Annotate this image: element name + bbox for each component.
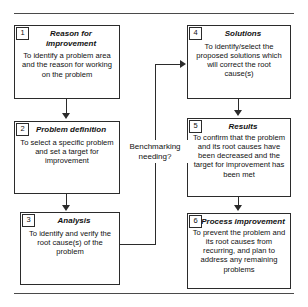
- arrow-down-icon-2-to-3: [62, 205, 70, 211]
- step-body-5: To confirm that the problem and its root…: [191, 133, 287, 179]
- flow-step-2[interactable]: 2 Problem definition To select a specifi…: [14, 121, 120, 194]
- top-divider-rule: [14, 13, 294, 14]
- step-number-badge-2: 2: [16, 123, 29, 136]
- step-number-badge-1: 1: [16, 27, 29, 40]
- flow-step-1[interactable]: 1 Reason for improvement To identify a p…: [14, 25, 120, 99]
- flow-step-6[interactable]: 6 Process improvement To prevent the pro…: [187, 213, 291, 289]
- flowchart-figure: 1 Reason for improvement To identify a p…: [0, 0, 308, 307]
- flow-step-3[interactable]: 3 Analysis To identify and verify the ro…: [20, 212, 120, 285]
- arrow-down-icon-1-to-2: [62, 113, 70, 119]
- step-body-6: To prevent the problem and its root caus…: [191, 228, 287, 274]
- step-title-3: Analysis: [24, 216, 116, 226]
- step-body-4: To identify/select the proposed solution…: [191, 42, 287, 79]
- arrow-right-icon-3-to-4: [180, 60, 186, 68]
- step-body-3: To identify and verify the root cause(s)…: [24, 229, 116, 257]
- arrow-down-icon-4-to-5: [234, 110, 242, 116]
- step-body-1: To identify a problem area and the reaso…: [18, 51, 116, 79]
- step-number-badge-5: 5: [189, 120, 202, 133]
- step-title-5: Results: [191, 122, 287, 132]
- bottom-divider-rule: [14, 293, 294, 294]
- step-title-2: Problem definition: [18, 125, 116, 135]
- step-title-1: Reason for improvement: [18, 29, 116, 48]
- flow-step-4[interactable]: 4 Solutions To identify/select the propo…: [187, 25, 291, 99]
- connector-3-to-4-segment-horizontal-lower: [120, 244, 156, 245]
- step-title-6: Process improvement: [191, 217, 287, 227]
- step-number-badge-4: 4: [189, 27, 202, 40]
- arrow-down-icon-5-to-6: [234, 205, 242, 211]
- flow-step-5[interactable]: 5 Results To confirm that the problem an…: [187, 118, 291, 197]
- step-body-2: To select a specific problem and set a t…: [18, 138, 116, 166]
- step-number-badge-3: 3: [22, 214, 35, 227]
- benchmarking-decision-label: Benchmarking needing?: [122, 140, 188, 163]
- step-number-badge-6: 6: [189, 215, 202, 228]
- step-title-4: Solutions: [191, 29, 287, 39]
- connector-3-to-4-segment-horizontal-upper: [155, 64, 181, 65]
